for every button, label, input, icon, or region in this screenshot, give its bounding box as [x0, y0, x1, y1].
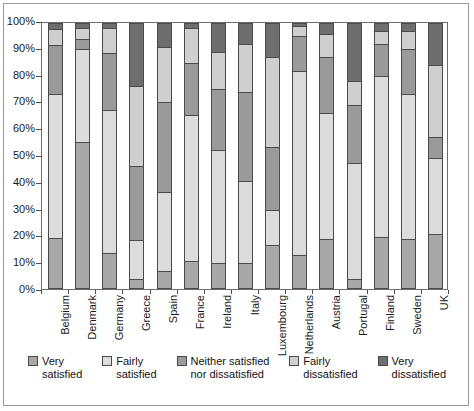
bar-segment [266, 24, 279, 58]
bar-segment [49, 239, 62, 288]
y-axis-tick-label: 10% [0, 257, 35, 268]
bar-segment [76, 50, 89, 142]
y-axis-tick-label: 90% [0, 43, 35, 54]
bar-segment [266, 58, 279, 148]
legend-label: Very satisfied [42, 355, 82, 381]
bar-segment [266, 148, 279, 211]
bar-segment [212, 151, 225, 265]
bar-spain [157, 23, 172, 289]
bar-finland [374, 23, 389, 289]
bar-segment [103, 111, 116, 254]
x-axis-label-sweden: Sweden [412, 295, 423, 335]
x-axis-label-uk: UK [439, 295, 450, 310]
x-axis-tick-mark [367, 290, 368, 294]
x-axis-tick-mark [421, 290, 422, 294]
bar-segment [239, 93, 252, 183]
bar-segment [348, 280, 361, 288]
x-axis-tick-mark [231, 290, 232, 294]
legend-label: Neither satisfied nor dissatisfied [191, 355, 270, 381]
bar-segment [130, 241, 143, 281]
bar-segment [49, 46, 62, 95]
legend-item-1: Fairly satisfied [102, 355, 156, 381]
bar-segment [239, 24, 252, 45]
bar-segment [348, 164, 361, 280]
bar-segment [402, 240, 415, 288]
x-axis-tick-mark [41, 290, 42, 294]
x-axis-tick-mark [448, 290, 449, 294]
x-axis-tick-mark [394, 290, 395, 294]
bar-segment [185, 116, 198, 261]
x-axis-label-netherlands: Netherlands [304, 295, 315, 354]
x-axis-label-finland: Finland [385, 295, 396, 331]
y-axis-tick-label: 0% [0, 284, 35, 295]
bar-segment [76, 29, 89, 40]
bar-segment [212, 24, 225, 53]
bar-segment [348, 24, 361, 82]
bar-belgium [48, 23, 63, 289]
bar-sweden [401, 23, 416, 289]
x-axis-label-denmark: Denmark [87, 295, 98, 340]
bar-segment [293, 37, 306, 71]
bar-segment [158, 272, 171, 288]
bar-segment [212, 264, 225, 288]
bar-germany [102, 23, 117, 289]
bar-italy [238, 23, 253, 289]
y-axis-tick-label: 30% [0, 204, 35, 215]
plot-area [42, 23, 447, 289]
bar-segment [429, 24, 442, 66]
x-axis-label-portugal: Portugal [358, 295, 369, 336]
bar-segment [49, 30, 62, 46]
chart-legend: Very satisfiedFairly satisfiedNeither sa… [14, 355, 460, 395]
x-axis-label-italy: Italy [250, 295, 261, 315]
bar-segment [402, 32, 415, 50]
legend-item-3: Fairly dissatisfied [289, 355, 357, 381]
chart-figure: 0%10%20%30%40%50%60%70%80%90%100% Belgiu… [0, 0, 474, 411]
bar-uk [428, 23, 443, 289]
bar-segment [103, 29, 116, 54]
bar-segment [348, 106, 361, 164]
legend-label: Fairly dissatisfied [303, 355, 357, 381]
bar-segment [239, 45, 252, 93]
x-axis-label-france: France [195, 295, 206, 329]
x-axis-label-luxembourg: Luxembourg [277, 295, 288, 356]
bar-segment [158, 193, 171, 272]
bar-segment [185, 262, 198, 288]
bar-segment [185, 29, 198, 63]
bar-segment [185, 64, 198, 117]
x-axis-label-austria: Austria [331, 295, 342, 329]
y-axis-tick-label: 70% [0, 96, 35, 107]
bar-greece [129, 23, 144, 289]
y-axis-tick-label: 20% [0, 230, 35, 241]
y-axis-tick-label: 60% [0, 123, 35, 134]
bar-segment [320, 24, 333, 35]
bar-segment [375, 238, 388, 288]
bar-segment [103, 54, 116, 111]
bar-segment [320, 58, 333, 113]
bar-segment [239, 264, 252, 288]
y-axis-tick-label: 80% [0, 70, 35, 81]
legend-swatch-icon [102, 356, 112, 366]
x-axis-tick-mark [258, 290, 259, 294]
bar-segment [429, 66, 442, 137]
bar-segment [212, 90, 225, 151]
bar-segment [76, 143, 89, 288]
bar-segment [402, 95, 415, 240]
y-axis-tick-label: 100% [0, 16, 35, 27]
legend-item-4: Very dissatisfied [378, 355, 446, 381]
bar-segment [375, 77, 388, 238]
bar-portugal [347, 23, 362, 289]
x-axis-label-belgium: Belgium [60, 295, 71, 335]
bar-segment [375, 24, 388, 32]
bar-segment [103, 254, 116, 288]
plot-area-frame [41, 22, 448, 290]
legend-swatch-icon [177, 356, 187, 366]
x-axis-tick-mark [95, 290, 96, 294]
bar-segment [49, 95, 62, 239]
bar-segment [375, 32, 388, 45]
bar-segment [429, 138, 442, 159]
legend-swatch-icon [28, 356, 38, 366]
x-axis-label-greece: Greece [141, 295, 152, 331]
legend-label: Fairly satisfied [116, 355, 156, 381]
x-axis-tick-mark [177, 290, 178, 294]
bar-france [184, 23, 199, 289]
